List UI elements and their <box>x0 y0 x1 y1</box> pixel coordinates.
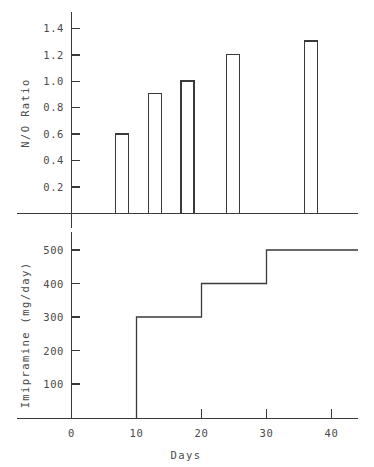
bottom-yticklabel-3: 300 <box>43 311 64 323</box>
bar-3 <box>181 81 194 213</box>
bottom-yticklabel-2: 400 <box>43 278 64 290</box>
top-yticklabel-5: 0.6 <box>43 128 64 140</box>
figure-container: 1.4 1.2 1.0 0.8 0.6 0.4 0.2 N/O Ratio <box>0 0 374 467</box>
x-axis-title: Days <box>171 449 202 461</box>
xticklabel-1: 0 <box>68 427 75 439</box>
top-yticklabel-7: 0.2 <box>43 181 64 193</box>
top-yticklabel-4: 0.8 <box>43 101 64 113</box>
bottom-panel-y-axis-title: Imipramine (mg/day) <box>19 262 31 409</box>
xticklabel-5: 40 <box>325 427 339 439</box>
dose-step-line <box>137 250 359 419</box>
top-panel-y-axis-title: N/O Ratio <box>19 78 31 148</box>
xticklabel-3: 20 <box>195 427 209 439</box>
top-yticklabel-2: 1.2 <box>43 49 64 61</box>
bottom-yticklabel-4: 200 <box>43 345 64 357</box>
bottom-yticklabel-5: 100 <box>43 378 64 390</box>
top-panel: 1.4 1.2 1.0 0.8 0.6 0.4 0.2 N/O Ratio <box>17 12 358 228</box>
xticklabel-4: 30 <box>260 427 274 439</box>
top-yticklabel-1: 1.4 <box>43 22 64 34</box>
bottom-yticklabel-1: 500 <box>43 244 64 256</box>
bar-2 <box>149 94 162 214</box>
dual-panel-chart: 1.4 1.2 1.0 0.8 0.6 0.4 0.2 N/O Ratio <box>0 0 374 467</box>
bar-4 <box>227 55 240 214</box>
xticklabel-2: 10 <box>130 427 144 439</box>
bar-5 <box>305 41 318 213</box>
bar-1 <box>116 134 129 213</box>
bottom-panel: 500 400 300 200 100 0 10 20 30 40 Imipra… <box>17 232 358 461</box>
top-yticklabel-6: 0.4 <box>43 154 64 166</box>
bar-series <box>116 41 318 213</box>
top-yticklabel-3: 1.0 <box>43 75 64 87</box>
